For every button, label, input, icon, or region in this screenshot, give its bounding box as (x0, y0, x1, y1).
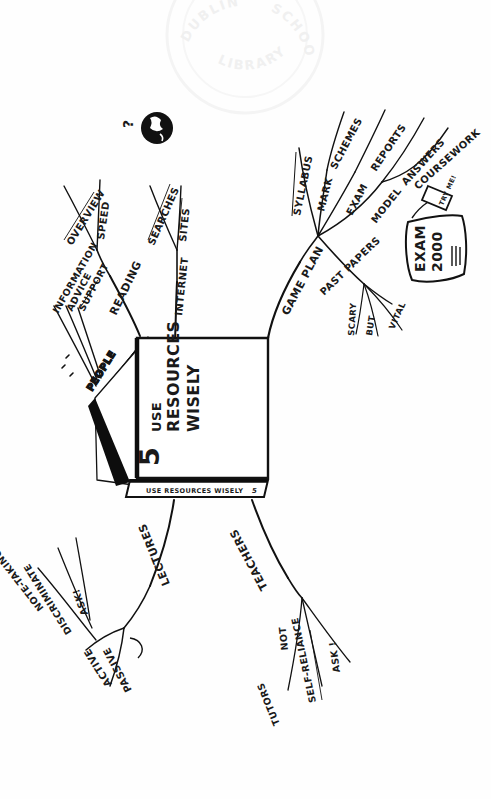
svg-text:PAST PAPERS: PAST PAPERS (318, 234, 383, 297)
svg-text:BUT: BUT (364, 315, 377, 337)
label-teachers: TEACHERS (227, 527, 270, 593)
svg-text:SCHEMES: SCHEMES (328, 116, 364, 171)
svg-text:TUTORS: TUTORS (255, 681, 282, 727)
svg-text:MODEL: MODEL (369, 185, 404, 225)
label-but: BUT (364, 315, 377, 337)
label-schemes: SCHEMES (328, 116, 364, 171)
label-self-reliance: SELF-RELIANCE (289, 617, 318, 704)
svg-text:EXAM: EXAM (344, 182, 370, 217)
label-searches: SEARCHES (146, 185, 181, 246)
svg-text:PEOPLE: PEOPLE (84, 349, 117, 393)
svg-text:REPORTS: REPORTS (369, 122, 409, 173)
label-past-papers: PAST PAPERS (318, 234, 383, 297)
label-exam: EXAM (344, 182, 370, 217)
label-lectures: LECTURES (136, 522, 173, 588)
mindmap-canvas: DUBLIN SCHOOL LIBRARY (0, 0, 491, 799)
svg-text:LECTURES: LECTURES (136, 522, 173, 588)
label-vital: VITAL (387, 300, 408, 331)
svg-text:SELF-RELIANCE: SELF-RELIANCE (289, 617, 318, 704)
label-syllabus: SYLLABUS (291, 154, 314, 216)
svg-text:MARK: MARK (315, 175, 334, 212)
label-reading: READING (107, 259, 144, 318)
label-tutors: TUTORS (255, 681, 282, 727)
svg-text:ASK !: ASK ! (327, 641, 342, 673)
svg-text:SEARCHES: SEARCHES (146, 185, 181, 246)
svg-text:INTERNET: INTERNET (173, 257, 190, 317)
label-people: PEOPLE (84, 349, 117, 393)
label-game-plan: GAME PLAN (279, 244, 326, 317)
svg-text:TEACHERS: TEACHERS (227, 527, 270, 593)
label-not: NOT (277, 626, 290, 651)
svg-text:GAME PLAN: GAME PLAN (279, 244, 326, 317)
svg-text:ASK!: ASK! (70, 587, 90, 617)
label-mark: MARK (315, 175, 334, 212)
branch-labels: GAME PLAN SYLLABUS MARK SCHEMES EXAM REP… (0, 0, 491, 799)
label-scary: SCARY (346, 302, 358, 336)
svg-text:VITAL: VITAL (387, 300, 408, 331)
passive-strike-mark (130, 638, 142, 658)
svg-text:SYLLABUS: SYLLABUS (291, 154, 314, 216)
label-internet: INTERNET (173, 257, 190, 317)
label-ask-lectures: ASK! (70, 587, 90, 617)
label-model: MODEL (369, 185, 404, 225)
svg-text:NOT: NOT (277, 626, 290, 651)
label-ask-teachers: ASK ! (327, 641, 342, 673)
svg-text:SCARY: SCARY (346, 302, 358, 336)
svg-text:READING: READING (107, 259, 144, 318)
label-reports: REPORTS (369, 122, 409, 173)
